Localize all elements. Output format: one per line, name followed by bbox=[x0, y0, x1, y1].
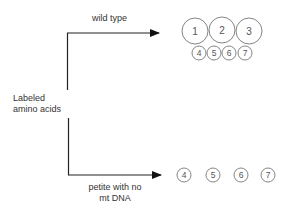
wt-circle-7-label: 7 bbox=[243, 48, 248, 58]
source-label-line2: amino acids bbox=[13, 104, 61, 115]
petite-circle-6-label: 6 bbox=[239, 170, 244, 180]
petite-label-line1: petite with no bbox=[80, 182, 150, 193]
petite-circles bbox=[177, 168, 275, 182]
petite-circle-4-label: 4 bbox=[182, 170, 187, 180]
wt-circle-5-label: 5 bbox=[212, 48, 217, 58]
source-label-line1: Labeled bbox=[13, 93, 45, 104]
wild-type-label: wild type bbox=[92, 13, 127, 24]
petite-circle-7-label: 7 bbox=[266, 170, 271, 180]
wt-circle-4-label: 4 bbox=[197, 48, 202, 58]
wt-circle-1-label: 1 bbox=[192, 26, 198, 37]
petite-circle-5-label: 5 bbox=[211, 170, 216, 180]
wt-circle-6-label: 6 bbox=[227, 48, 232, 58]
petite-label-line2: mt DNA bbox=[80, 193, 150, 204]
wt-circle-2-label: 2 bbox=[219, 25, 225, 36]
wt-circle-3-label: 3 bbox=[246, 26, 252, 37]
